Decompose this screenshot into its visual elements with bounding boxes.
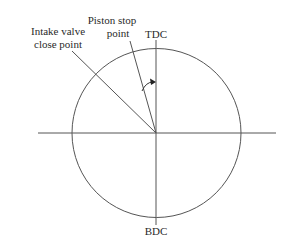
bdc-label: BDC xyxy=(145,225,168,237)
intake-label-line1: Intake valve xyxy=(31,25,85,37)
piston-stop-line xyxy=(130,41,156,133)
crank-angle-diagram: Intake valve close point Piston stop poi… xyxy=(0,0,287,244)
tdc-label: TDC xyxy=(145,28,167,40)
piston-label-line2: point xyxy=(107,27,130,39)
intake-label-line2: close point xyxy=(34,38,82,50)
arrowhead-icon xyxy=(150,79,156,86)
intake-valve-close-line xyxy=(72,51,156,133)
piston-label-line1: Piston stop xyxy=(88,14,137,26)
